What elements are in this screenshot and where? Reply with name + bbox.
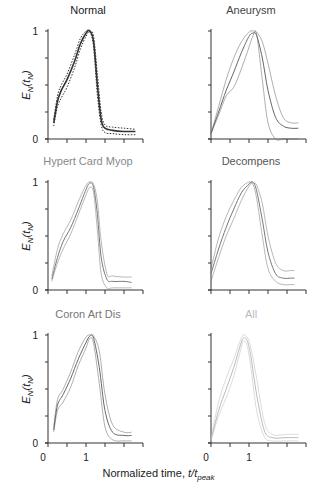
x-tick-label-0: 0 [203, 452, 209, 463]
curve-upper [54, 334, 132, 432]
panel-normal: Normal10EN(tN) [20, 4, 143, 145]
curve-mean [54, 335, 132, 436]
x-tick-label-1: 1 [83, 452, 89, 463]
y-axis-label: EN(tN) [20, 70, 35, 100]
panel-coron-art-dis: Coron Art Dis10EN(tN)01 [20, 308, 143, 463]
panel-title: Normal [70, 4, 105, 16]
y-tick-label-1: 1 [32, 26, 38, 37]
panel-title: Aneurysm [226, 4, 276, 16]
y-tick-label-1: 1 [32, 177, 38, 188]
curve-upper [211, 182, 295, 271]
y-tick-label-0: 0 [32, 438, 38, 449]
y-tick-label-0: 0 [32, 134, 38, 145]
curve-mean [211, 338, 298, 440]
x-axis-label-var: t/t [188, 467, 197, 479]
curve-mean [54, 30, 136, 131]
curve-upper [211, 335, 298, 438]
panel-title: Hypert Card Myop [43, 155, 132, 167]
x-axis-label: Normalized time, t/tpeak [0, 467, 317, 482]
curve-lower [211, 341, 298, 441]
y-tick-label-1: 1 [32, 330, 38, 341]
x-tick-label-1: 1 [246, 452, 252, 463]
panel-decompens: Decompens [208, 155, 306, 294]
x-tick-label-0: 0 [40, 452, 46, 463]
panel-all: All01 [203, 308, 306, 463]
x-axis-label-text: Normalized time, [102, 467, 188, 479]
curve-upper [52, 182, 132, 277]
figure-panels: Normal10EN(tN)AneurysmHypert Card Myop10… [0, 0, 317, 499]
curve-lower [52, 187, 132, 289]
curve-mean [211, 33, 298, 134]
y-axis-label: EN(tN) [20, 221, 35, 251]
curve-upper [211, 31, 298, 134]
panel-title: Decompens [222, 155, 281, 167]
curve-mean [211, 182, 295, 279]
y-tick-label-0: 0 [32, 285, 38, 296]
panel-title: All [245, 308, 257, 320]
panel-hypert-card-myop: Hypert Card Myop10EN(tN) [20, 155, 143, 296]
y-axis-label: EN(tN) [20, 374, 35, 404]
panel-title: Coron Art Dis [55, 308, 121, 320]
panel-aneurysm: Aneurysm [208, 4, 306, 143]
x-axis-label-sub: peak [197, 473, 214, 482]
